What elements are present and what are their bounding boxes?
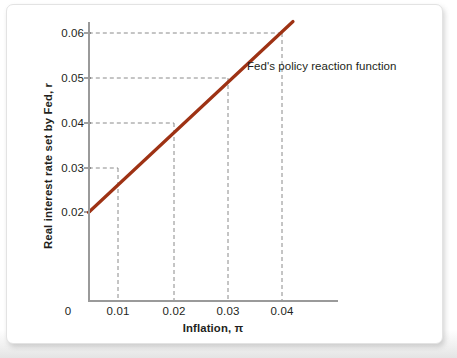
horizontal-guide-lines: [89, 33, 282, 168]
vertical-guide-lines: [118, 33, 282, 300]
xtick-label-0.02: 0.02: [154, 305, 194, 317]
xtick-label-0.01: 0.01: [98, 305, 138, 317]
y-axis-title: Real interest rate set by Fed, r: [42, 56, 54, 276]
x-axis-line: [88, 300, 338, 302]
policy-reaction-line: [89, 22, 294, 213]
xtick-label-0.04: 0.04: [262, 305, 302, 317]
series-annotation-label: Fed's policy reaction function: [247, 60, 396, 72]
xtick-label-0.03: 0.03: [208, 305, 248, 317]
screenshot-root: 0.06 0.05 0.04 0.03 0.02 0 0.01 0.02 0.0…: [0, 0, 457, 358]
ytick-label-0.06: 0.06: [48, 27, 84, 39]
chart-figure: 0.06 0.05 0.04 0.03 0.02 0 0.01 0.02 0.0…: [0, 0, 457, 358]
x-axis-title: Inflation, π: [88, 322, 338, 334]
xtick-label-0: 0: [48, 305, 88, 317]
y-axis-line: [88, 22, 90, 302]
